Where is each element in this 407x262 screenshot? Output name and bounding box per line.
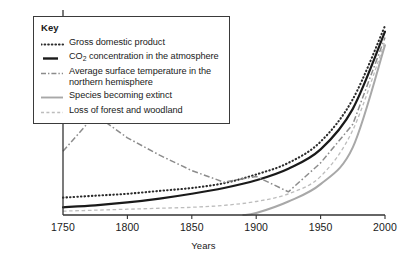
legend-item-label: Gross domestic product bbox=[69, 37, 165, 48]
series-line-species bbox=[243, 45, 385, 215]
x-tick-label: 2000 bbox=[363, 221, 407, 233]
legend: Key Gross domestic productCO2 concentrat… bbox=[33, 16, 230, 124]
legend-line-sample-gdp bbox=[41, 37, 66, 49]
x-axis-title: Years bbox=[0, 240, 407, 251]
x-tick-label: 1850 bbox=[170, 221, 214, 233]
x-tick-label: 1950 bbox=[299, 221, 343, 233]
legend-line-sample-temperature bbox=[41, 66, 66, 78]
legend-title: Key bbox=[41, 22, 223, 34]
legend-item-temperature: Average surface temperature in the north… bbox=[41, 66, 223, 88]
legend-item-label: Loss of forest and woodland bbox=[69, 105, 183, 116]
legend-item-label: CO2 concentration in the atmosphere bbox=[69, 51, 219, 62]
legend-item-species: Species becoming extinct bbox=[41, 90, 223, 102]
x-tick-label: 1750 bbox=[41, 221, 85, 233]
legend-item-gdp: Gross domestic product bbox=[41, 37, 223, 49]
legend-line-sample-co2 bbox=[41, 51, 66, 63]
legend-item-label: Species becoming extinct bbox=[69, 90, 172, 101]
legend-line-sample-species bbox=[41, 90, 66, 102]
x-tick-label: 1800 bbox=[105, 221, 149, 233]
chart-container: 175018001850190019502000 Years Key Gross… bbox=[0, 0, 407, 262]
legend-item-label: Average surface temperature in the north… bbox=[69, 66, 223, 88]
legend-line-sample-forest bbox=[41, 105, 66, 117]
x-tick-label: 1900 bbox=[234, 221, 278, 233]
legend-item-co2: CO2 concentration in the atmosphere bbox=[41, 51, 223, 63]
legend-entries: Gross domestic productCO2 concentration … bbox=[41, 37, 223, 117]
legend-item-forest: Loss of forest and woodland bbox=[41, 105, 223, 117]
